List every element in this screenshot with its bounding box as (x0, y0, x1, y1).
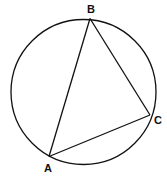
segment-ca (49, 115, 150, 157)
segment-ab (49, 19, 90, 157)
vertex-label-a: A (44, 162, 52, 174)
segment-bc (90, 19, 150, 116)
vertex-label-c: C (154, 114, 162, 126)
diagram-canvas: A B C (0, 0, 167, 179)
vertex-label-b: B (87, 3, 95, 15)
